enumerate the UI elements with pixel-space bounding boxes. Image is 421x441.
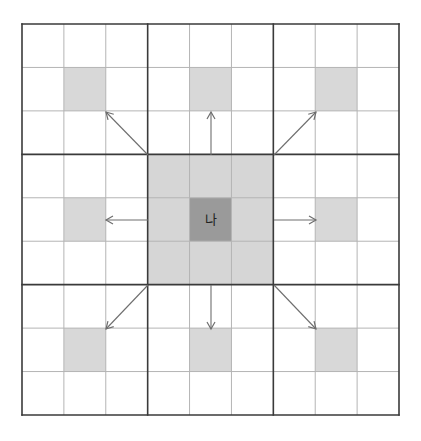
- highlight-cell: [315, 198, 357, 241]
- highlight-cell: [64, 67, 106, 110]
- arrow-down-left-icon: [106, 285, 148, 329]
- highlight-cell: [64, 328, 106, 371]
- highlight-cell: [315, 328, 357, 371]
- highlight-cell: [315, 67, 357, 110]
- highlight-cell: [190, 67, 232, 110]
- arrow-up-right-icon: [274, 112, 316, 155]
- highlight-cell: [190, 328, 232, 371]
- arrow-down-right-icon: [274, 285, 316, 329]
- center-cell-label: 나: [205, 212, 217, 227]
- highlight-cell: [64, 198, 106, 241]
- arrow-up-left-icon: [106, 112, 148, 155]
- neighbor-grid-diagram: 나: [0, 0, 421, 441]
